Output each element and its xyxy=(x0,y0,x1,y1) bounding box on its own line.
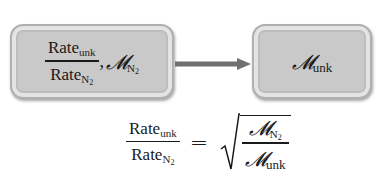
radicand: 𝓜N2 𝓜unk xyxy=(240,115,291,171)
unknown-molar-mass-box: 𝓜unk xyxy=(252,24,372,99)
rhs-denominator: 𝓜unk xyxy=(242,144,289,171)
given-quantities-box: Rateunk RateN2 , 𝓜N2 xyxy=(10,24,174,99)
rate-ratio-fraction: Rateunk RateN2 xyxy=(45,38,99,85)
separator: , xyxy=(100,51,105,72)
lhs-denominator: RateN2 xyxy=(128,142,177,165)
lhs-numerator: Rateunk xyxy=(126,119,180,141)
rate-n2: RateN2 xyxy=(47,62,96,85)
molar-mass-n2: 𝓜N2 xyxy=(106,50,139,74)
equals-sign: = xyxy=(190,130,208,155)
right-arrow-icon xyxy=(175,58,251,70)
rhs-numerator: 𝓜N2 xyxy=(246,116,285,142)
lhs-fraction: Rateunk RateN2 xyxy=(126,119,180,166)
molar-mass-unk: 𝓜unk xyxy=(292,50,333,74)
grahams-law-equation: Rateunk RateN2 = 𝓜N2 𝓜unk xyxy=(126,114,291,170)
rhs-fraction: 𝓜N2 𝓜unk xyxy=(242,116,289,171)
square-root: 𝓜N2 𝓜unk xyxy=(220,113,291,171)
rate-unk: Rateunk xyxy=(45,38,99,60)
radical-sign-icon xyxy=(220,113,240,171)
